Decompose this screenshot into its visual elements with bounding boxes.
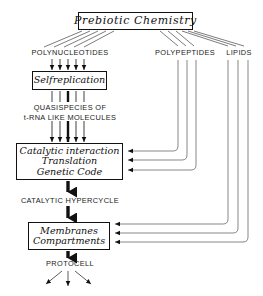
prebiotic-chemistry-diagram: Prebiotic Chemistry Selfreplication Cata… (0, 0, 263, 296)
box-prebiotic-chemistry[interactable]: Prebiotic Chemistry (78, 12, 193, 30)
label-catalytic-hypercycle: CATALYTIC HYPERCYCLE (18, 196, 122, 205)
label-protocell: PROTOCELL (42, 259, 98, 268)
protocell-outcome-arrows (46, 271, 91, 286)
label-quasispecies-line-1: QUASISPECIES OF (18, 103, 122, 113)
label-polynucleotides: POLYNUCLEOTIDES (24, 48, 116, 57)
fan-to-polynucleotides (44, 31, 114, 47)
arrows-polynucleotides-to-selfreplication (52, 59, 84, 70)
box-selfreplication-line-1: Selfreplication (34, 75, 105, 85)
box-selfreplication[interactable]: Selfreplication (32, 71, 107, 90)
box-catalytic-line-3: Genetic Code (37, 167, 102, 177)
label-quasispecies-line-2: t-RNA LIKE MOLECULES (18, 113, 122, 123)
box-membranes-line-2: Compartments (33, 236, 105, 246)
box-catalytic-interaction[interactable]: Catalytic interaction Translation Geneti… (16, 143, 123, 180)
box-membranes-compartments[interactable]: Membranes Compartments (28, 222, 110, 250)
lines-selfreplication-to-quasispecies (52, 91, 84, 102)
label-polypeptides: POLYPEPTIDES (152, 48, 218, 57)
routed-polypeptides-to-catalytic (128, 60, 196, 170)
box-prebiotic-chemistry-line-1: Prebiotic Chemistry (74, 15, 197, 27)
label-lipids: LIPIDS (220, 48, 258, 57)
arrows-quasispecies-to-catalytic (52, 121, 84, 142)
label-quasispecies: QUASISPECIES OF t-RNA LIKE MOLECULES (18, 103, 122, 123)
